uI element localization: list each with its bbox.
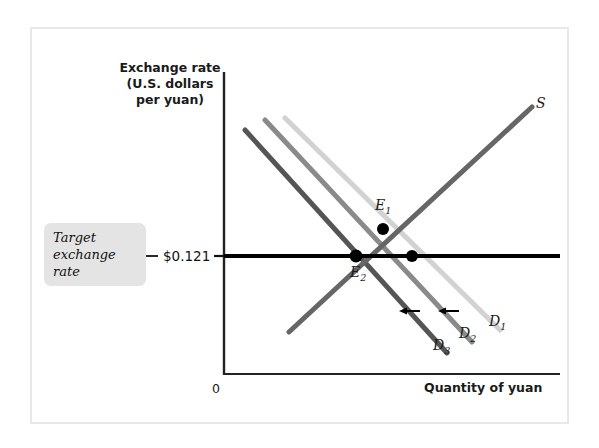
point-e1-dot: [377, 223, 389, 235]
target-box-line-1: Target: [53, 229, 137, 246]
y-axis-label-line-1: Exchange rate: [114, 60, 226, 76]
y-axis-label: Exchange rate (U.S. dollars per yuan): [114, 60, 226, 108]
demand-curve-1-label: D1: [489, 313, 506, 332]
demand-curve-3: [245, 130, 447, 353]
demand-curve-2-label: D2: [459, 325, 476, 344]
point-e1-label-text: E: [375, 197, 385, 213]
target-box-line-3: rate: [53, 263, 137, 280]
point-e2-label: E2: [350, 264, 366, 283]
demand-curve-2: [265, 120, 472, 342]
demand-curve-1: [285, 118, 500, 330]
point-e2-label-sub: 2: [360, 272, 366, 283]
supply-curve-label: S: [536, 95, 546, 111]
x-axis-label: Quantity of yuan: [424, 380, 542, 396]
target-box-line-2: exchange: [53, 246, 137, 263]
demand-curve-3-label: D3: [433, 337, 450, 356]
demand-curve-3-label-sub: 3: [444, 345, 450, 356]
demand-curve-3-label-text: D: [433, 337, 444, 353]
point-e2-dot: [350, 250, 363, 263]
origin-label: 0: [212, 381, 220, 396]
figure-page: Exchange rate (U.S. dollars per yuan) Qu…: [0, 0, 599, 448]
y-axis-label-line-2: (U.S. dollars: [114, 76, 226, 92]
point-d1-target-dot: [406, 250, 418, 262]
y-axis-label-line-3: per yuan): [114, 92, 226, 108]
point-e2-label-text: E: [350, 264, 360, 280]
demand-curve-1-label-text: D: [489, 313, 500, 329]
target-rate-value: $0.121: [163, 248, 210, 264]
demand-curve-1-label-sub: 1: [500, 321, 506, 332]
point-e1-label-sub: 1: [385, 205, 391, 216]
demand-curve-2-label-sub: 2: [470, 333, 476, 344]
supply-curve-label-text: S: [536, 95, 546, 111]
point-e1-label: E1: [375, 197, 391, 216]
demand-curve-2-label-text: D: [459, 325, 470, 341]
target-exchange-rate-box: Target exchange rate: [44, 223, 146, 286]
